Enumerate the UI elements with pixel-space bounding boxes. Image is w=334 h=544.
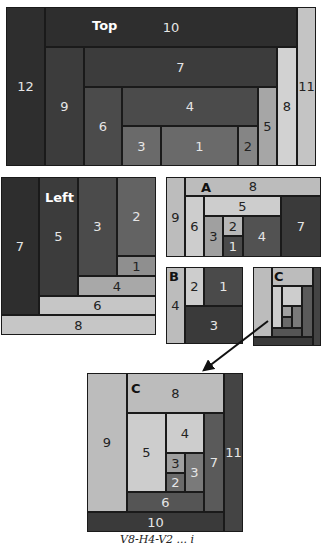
cell-label: 7 xyxy=(297,219,305,234)
cell-label: 3 xyxy=(137,139,145,154)
cell-label: 4 xyxy=(113,279,121,294)
cell-label: 4 xyxy=(258,229,266,244)
cell-c-small-8 xyxy=(282,306,292,317)
cell-c-small-4 xyxy=(272,286,282,328)
diagram-tag-a: A xyxy=(201,180,211,195)
cell-label: 3 xyxy=(210,318,218,333)
cell-label: 9 xyxy=(60,99,68,114)
cell-label: 10 xyxy=(147,515,164,530)
cell-top-4: 4 xyxy=(122,87,258,126)
cell-top-1: 1 xyxy=(161,126,238,166)
cell-a-2: 2 xyxy=(223,216,243,236)
cell-c-large-9: 9 xyxy=(87,373,127,512)
cell-top-8: 8 xyxy=(277,47,297,166)
cell-c-large-6: 6 xyxy=(127,492,204,512)
cell-c-small-2 xyxy=(313,267,321,346)
cell-a-7: 7 xyxy=(281,196,321,257)
cell-left-1: 1 xyxy=(117,256,156,276)
cell-c-small-10 xyxy=(292,306,302,328)
cell-top-2: 2 xyxy=(238,126,258,166)
cell-label: 6 xyxy=(161,495,169,510)
cell-c-small-9 xyxy=(282,317,292,328)
cell-a-9: 9 xyxy=(166,177,185,257)
cell-c-large-11: 11 xyxy=(224,373,243,532)
cell-left-7: 7 xyxy=(1,177,39,315)
cell-label: 6 xyxy=(190,219,198,234)
cell-a-4: 4 xyxy=(243,216,281,257)
cell-label: 6 xyxy=(99,119,107,134)
cell-label: 12 xyxy=(17,79,34,94)
cell-c-large-4: 4 xyxy=(166,413,204,453)
cell-label: 7 xyxy=(176,60,184,75)
cell-top-10: 10 xyxy=(45,7,297,47)
cell-label: 6 xyxy=(93,298,101,313)
cell-c-small-6 xyxy=(302,286,313,337)
cell-label: 3 xyxy=(171,456,179,471)
cell-left-4: 4 xyxy=(78,276,156,296)
cell-label: 8 xyxy=(74,318,82,333)
cell-c-large-8: 8 xyxy=(127,373,224,413)
cell-c-small-5 xyxy=(282,286,302,306)
cell-label: 2 xyxy=(244,139,252,154)
cell-label: 11 xyxy=(298,79,315,94)
cell-label: 10 xyxy=(163,20,180,35)
cell-b-2: 2 xyxy=(185,267,204,306)
cell-label: 4 xyxy=(181,426,189,441)
cell-label: 2 xyxy=(171,475,179,490)
cell-left-3: 3 xyxy=(78,177,117,276)
cell-a-5: 5 xyxy=(204,196,281,216)
cell-label: 1 xyxy=(219,279,227,294)
cell-top-5: 5 xyxy=(258,87,277,166)
cell-c-large-3: 3 xyxy=(185,453,204,492)
cell-label: 2 xyxy=(132,209,140,224)
cell-label: 2 xyxy=(229,219,237,234)
cell-a-6: 6 xyxy=(185,196,204,257)
cell-c-large-3: 3 xyxy=(166,453,185,473)
cell-c-small-7 xyxy=(272,328,302,337)
cell-top-6: 6 xyxy=(84,87,122,166)
cell-label: 5 xyxy=(263,119,271,134)
cell-label: 5 xyxy=(54,229,62,244)
figure-caption: V8-H4-V2 ... i xyxy=(120,533,194,544)
cell-c-large-10: 10 xyxy=(87,512,224,532)
cell-b-3: 3 xyxy=(185,306,243,344)
diagram-tag-c-large: C xyxy=(131,381,141,396)
cell-top-11: 11 xyxy=(297,7,316,166)
diagram-tag-b: B xyxy=(169,269,179,284)
cell-top-3: 3 xyxy=(122,126,161,166)
cell-c-large-7: 7 xyxy=(204,413,224,512)
cell-a-1: 1 xyxy=(223,236,243,257)
cell-top-9: 9 xyxy=(45,47,84,166)
cell-left-2: 2 xyxy=(117,177,156,256)
cell-left-6: 6 xyxy=(39,296,156,315)
cell-label: 3 xyxy=(93,219,101,234)
cell-c-small-0 xyxy=(253,267,272,337)
diagram-tag-left: Left xyxy=(45,190,74,205)
cell-a-3: 3 xyxy=(204,216,223,257)
cell-label: 1 xyxy=(195,139,203,154)
cell-label: 7 xyxy=(210,455,218,470)
cell-label: 7 xyxy=(16,239,24,254)
cell-label: 8 xyxy=(171,386,179,401)
cell-label: 4 xyxy=(186,99,194,114)
cell-label: 11 xyxy=(225,445,242,460)
cell-label: 3 xyxy=(190,465,198,480)
cell-top-7: 7 xyxy=(84,47,277,87)
cell-c-small-3 xyxy=(253,337,313,346)
cell-top-12: 12 xyxy=(6,7,45,166)
cell-label: 1 xyxy=(132,259,140,274)
cell-label: 9 xyxy=(103,435,111,450)
cell-label: 9 xyxy=(171,210,179,225)
cell-c-large-5: 5 xyxy=(127,413,166,492)
cell-left-8: 8 xyxy=(1,315,156,335)
diagram-tag-c-small: C xyxy=(274,269,284,284)
cell-label: 8 xyxy=(283,99,291,114)
cell-label: 4 xyxy=(171,298,179,313)
cell-label: 1 xyxy=(229,239,237,254)
cell-c-large-2: 2 xyxy=(166,473,185,492)
cell-label: 8 xyxy=(249,179,257,194)
cell-label: 5 xyxy=(142,445,150,460)
cell-label: 2 xyxy=(190,279,198,294)
cell-label: 3 xyxy=(209,229,217,244)
cell-label: 5 xyxy=(238,199,246,214)
